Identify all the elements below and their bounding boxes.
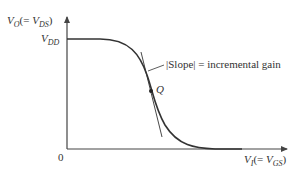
q-point-label: Q <box>156 83 164 95</box>
vdd-label: VDD <box>41 32 59 47</box>
y-axis-label: VO(= VDS) <box>7 14 52 29</box>
origin-label: 0 <box>58 151 64 163</box>
transfer-curve <box>67 39 242 149</box>
slope-annotation: |Slope| = incremental gain <box>166 58 281 70</box>
q-point-marker <box>149 89 153 93</box>
annotation-leader <box>148 65 164 71</box>
x-axis-label: VI(= VGS) <box>244 153 286 168</box>
